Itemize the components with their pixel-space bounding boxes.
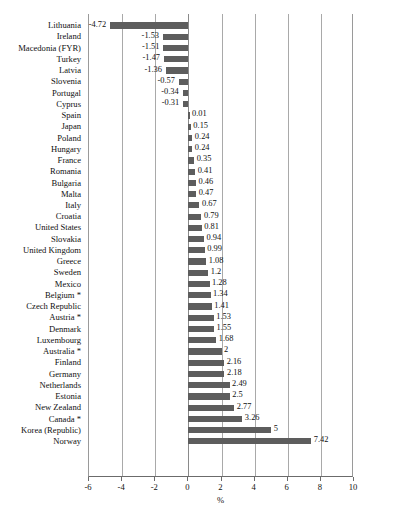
bar-value-label: -1.47: [143, 52, 160, 63]
bar: [188, 236, 204, 242]
category-label: Luxembourg: [37, 335, 81, 346]
category-label: Australia *: [43, 346, 81, 357]
bar-row: 0.47: [89, 189, 352, 200]
bar-value-label: 2.77: [237, 401, 252, 412]
bar: [166, 67, 189, 73]
bar-value-label: 0.46: [198, 176, 213, 187]
bar-row: 3.26: [89, 414, 352, 425]
bar-row: -1.51: [89, 43, 352, 54]
category-label: Netherlands: [39, 380, 81, 391]
category-label: Poland: [57, 133, 81, 144]
x-axis-ticks: -6-4-20246810: [88, 477, 353, 493]
category-axis-labels: LithuaniaIrelandMacedonia (FYR)TurkeyLat…: [0, 14, 85, 477]
category-label: Czech Republic: [26, 301, 81, 312]
category-label: Italy: [65, 200, 81, 211]
bar-row: 0.67: [89, 200, 352, 211]
bar-row: 2: [89, 346, 352, 357]
category-label: Norway: [53, 436, 81, 447]
bar: [188, 135, 192, 141]
bar-row: 2.16: [89, 357, 352, 368]
category-label: United Kingdom: [23, 245, 81, 256]
category-label: Mexico: [55, 279, 81, 290]
bar-rows: -4.72-1.53-1.51-1.47-1.36-0.57-0.34-0.31…: [89, 14, 352, 476]
bar-value-label: 2.49: [232, 378, 247, 389]
category-label: Canada *: [49, 414, 81, 425]
bar-value-label: -4.72: [89, 19, 106, 30]
bar-value-label: 0.79: [204, 210, 219, 221]
bar: [188, 360, 224, 366]
x-tick-label: -4: [118, 481, 125, 493]
bar-value-label: -0.57: [157, 75, 174, 86]
bar: [188, 157, 194, 163]
bar-value-label: 7.42: [314, 434, 329, 445]
bar: [188, 348, 221, 354]
bar: [188, 191, 196, 197]
category-label: Slovenia: [51, 76, 81, 87]
bar: [110, 22, 188, 28]
bar-value-label: 0.24: [195, 142, 210, 153]
bar-value-label: 0.94: [206, 232, 221, 243]
bar: [188, 112, 189, 118]
bar-row: -0.57: [89, 76, 352, 87]
bar-row: 0.35: [89, 155, 352, 166]
bar: [183, 101, 188, 107]
bar: [188, 315, 213, 321]
bar-value-label: 0.15: [193, 120, 208, 131]
bar: [188, 146, 192, 152]
bar: [188, 371, 224, 377]
bar-value-label: 5: [274, 423, 278, 434]
bar: [188, 180, 196, 186]
bar-value-label: 0.67: [202, 198, 217, 209]
bar-value-label: 1.28: [212, 277, 227, 288]
plot-area: -4.72-1.53-1.51-1.47-1.36-0.57-0.34-0.31…: [88, 14, 353, 477]
bar: [179, 79, 188, 85]
bar-row: -1.53: [89, 31, 352, 42]
x-tick-label: 0: [185, 481, 189, 493]
bar: [188, 382, 229, 388]
bar: [188, 438, 311, 444]
bar-value-label: 1.68: [219, 333, 234, 344]
x-tick-label: 4: [251, 481, 255, 493]
bar-value-label: 1.53: [216, 311, 231, 322]
bar-value-label: 0.35: [197, 153, 212, 164]
category-label: Romania: [50, 166, 81, 177]
bar-row: 0.24: [89, 133, 352, 144]
category-label: Hungary: [51, 144, 81, 155]
bar: [188, 281, 209, 287]
bar: [188, 337, 216, 343]
bar: [188, 225, 201, 231]
bar-value-label: 0.41: [198, 165, 213, 176]
bar-value-label: 0.01: [192, 108, 207, 119]
x-tick-label: 8: [318, 481, 322, 493]
bar: [188, 416, 242, 422]
category-label: Macedonia (FYR): [18, 43, 81, 54]
bar-value-label: -0.34: [161, 86, 178, 97]
bar-value-label: 1.2: [211, 266, 221, 277]
bar-row: 5: [89, 425, 352, 436]
bar-chart-figure: LithuaniaIrelandMacedonia (FYR)TurkeyLat…: [0, 0, 393, 522]
category-label: Denmark: [49, 324, 81, 335]
bar: [188, 214, 201, 220]
bar: [188, 326, 214, 332]
bar-value-label: 2.5: [232, 389, 242, 400]
bar-value-label: -1.36: [144, 64, 161, 75]
bar: [188, 303, 211, 309]
bar: [183, 90, 189, 96]
category-label: Estonia: [55, 391, 81, 402]
bar-value-label: 0.81: [204, 221, 219, 232]
bar-row: 1.68: [89, 335, 352, 346]
bar-value-label: 0.47: [199, 187, 214, 198]
category-label: Ireland: [57, 31, 81, 42]
bar-row: 0.01: [89, 110, 352, 121]
bar-value-label: -1.51: [142, 41, 159, 52]
bar-value-label: -1.53: [142, 30, 159, 41]
bar-row: 2.77: [89, 402, 352, 413]
bar-value-label: 3.26: [245, 412, 260, 423]
category-label: Sweden: [54, 267, 81, 278]
bar-row: 0.41: [89, 166, 352, 177]
x-tick-label: 6: [285, 481, 289, 493]
category-label: Belgium *: [45, 290, 81, 301]
x-tick-label: -2: [151, 481, 158, 493]
category-label: Austria *: [49, 312, 81, 323]
category-label: Malta: [61, 189, 81, 200]
